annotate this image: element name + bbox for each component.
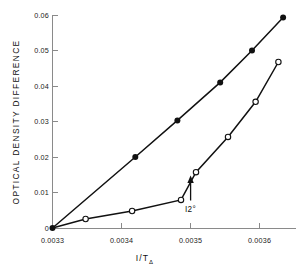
data-point-open xyxy=(178,197,183,202)
y-tick-label: 0.04 xyxy=(34,82,49,91)
y-tick-label: 0 xyxy=(45,224,49,233)
data-point-filled xyxy=(249,48,255,54)
x-axis-title-subscript: Δ xyxy=(149,259,154,265)
y-tick-marks xyxy=(53,15,59,228)
y-tick-label: 0.05 xyxy=(34,46,49,55)
data-point-open xyxy=(276,59,281,64)
data-point-filled xyxy=(174,117,180,123)
data-point-open xyxy=(253,99,258,104)
y-tick-label: 0.02 xyxy=(34,153,49,162)
data-point-filled xyxy=(217,79,223,85)
x-tick-marks xyxy=(53,223,260,229)
open-series-markers xyxy=(83,59,281,221)
filled-series-line xyxy=(53,18,284,229)
y-tick-label: 0.01 xyxy=(34,188,49,197)
x-tick-label: 0.0033 xyxy=(41,236,64,245)
annotation-label: I2° xyxy=(185,205,196,214)
y-tick-label: 0.06 xyxy=(34,11,49,20)
data-point-open xyxy=(83,216,88,221)
y-tick-label: 0.03 xyxy=(34,117,49,126)
x-tick-label: 0.0034 xyxy=(110,236,133,245)
series-filled-circles xyxy=(50,15,287,232)
chart-canvas: 0.06 0.05 0.04 0.03 0.02 0.01 0 0.0033 0… xyxy=(0,0,302,270)
x-axis-title: I/TΔ xyxy=(136,253,154,265)
data-point-filled xyxy=(132,154,138,160)
x-axis-title-main: I/T xyxy=(136,253,149,263)
transition-annotation: I2° xyxy=(185,176,196,215)
x-tick-labels: 0.0033 0.0034 0.0035 0.0036 xyxy=(41,236,271,245)
x-tick-label: 0.0035 xyxy=(179,236,202,245)
y-tick-labels: 0.06 0.05 0.04 0.03 0.02 0.01 0 xyxy=(34,11,49,233)
y-axis-title: OPTICAL DENSITY DIFFERENCE xyxy=(11,40,21,205)
open-series-line xyxy=(53,62,279,228)
data-point-open xyxy=(193,170,198,175)
data-point-open xyxy=(225,134,230,139)
x-tick-label: 0.0036 xyxy=(248,236,271,245)
figure-panel: 0.06 0.05 0.04 0.03 0.02 0.01 0 0.0033 0… xyxy=(0,0,302,270)
data-point-filled xyxy=(280,15,286,21)
filled-series-markers xyxy=(50,15,287,232)
data-point-open xyxy=(129,208,134,213)
series-open-circles xyxy=(53,59,282,228)
